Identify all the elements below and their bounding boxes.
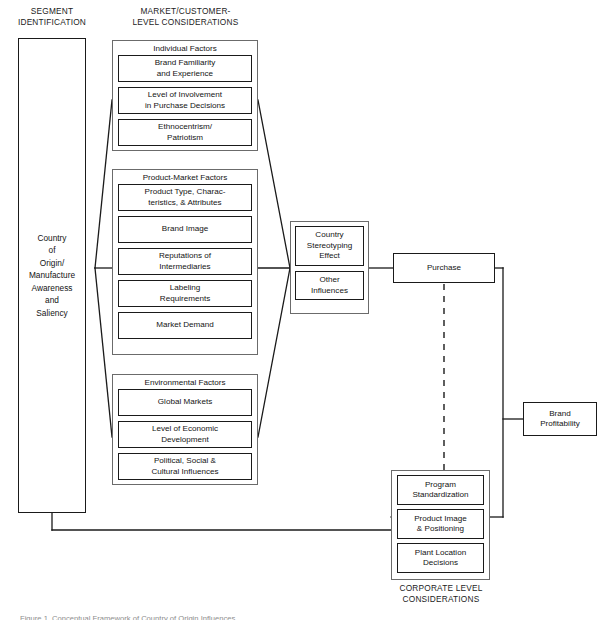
- node-brand-familiarity: Brand Familiarity and Experience: [118, 55, 252, 82]
- node-program-standardization: Program Standardization: [397, 475, 484, 505]
- segment-identification-box: Country of Origin/ Manufacture Awareness…: [18, 38, 86, 513]
- node-ethnocentrism-patriotism: Ethnocentrism/ Patriotism: [118, 119, 252, 146]
- group-title-product-market-factors: Product-Market Factors: [113, 172, 257, 183]
- node-product-type: Product Type, Charac- teristics, & Attri…: [118, 184, 252, 211]
- node-purchase: Purchase: [393, 253, 495, 283]
- node-political-social-cultural: Political, Social & Cultural Influences: [118, 453, 252, 480]
- node-brand-image: Brand Image: [118, 216, 252, 243]
- node-plant-location-decisions: Plant Location Decisions: [397, 543, 484, 573]
- node-other-influences: Other Influences: [295, 271, 364, 300]
- node-level-of-involvement: Level of Involvement in Purchase Decisio…: [118, 87, 252, 114]
- link-environment-to-mediating: [258, 268, 290, 437]
- link-individual-to-mediating: [258, 100, 290, 268]
- group-title-individual-factors: Individual Factors: [113, 43, 257, 54]
- node-level-of-economic-development: Level of Economic Development: [118, 421, 252, 448]
- heading-market-customer-level: MARKET/CUSTOMER- LEVEL CONSIDERATIONS: [108, 6, 263, 28]
- node-labeling-requirements: Labeling Requirements: [118, 280, 252, 307]
- node-market-demand: Market Demand: [118, 312, 252, 339]
- node-global-markets: Global Markets: [118, 389, 252, 416]
- link-segment-to-environment: [95, 268, 112, 437]
- node-reputations-of-intermediaries: Reputations of Intermediaries: [118, 248, 252, 275]
- heading-segment-identification: SEGMENT IDENTIFICATION: [4, 6, 100, 28]
- node-brand-profitability: Brand Profitability: [523, 402, 597, 436]
- figure-canvas: SEGMENT IDENTIFICATION MARKET/CUSTOMER- …: [0, 0, 611, 620]
- node-product-image-positioning: Product Image & Positioning: [397, 509, 484, 539]
- heading-corporate-level-considerations: CORPORATE LEVEL CONSIDERATIONS: [375, 583, 507, 605]
- group-title-environmental-factors: Environmental Factors: [113, 377, 257, 388]
- node-country-stereotyping-effect: Country Stereotyping Effect: [295, 226, 364, 266]
- link-segment-to-individual: [95, 100, 112, 268]
- figure-caption: Figure 1. Conceptual Framework of Countr…: [20, 614, 420, 620]
